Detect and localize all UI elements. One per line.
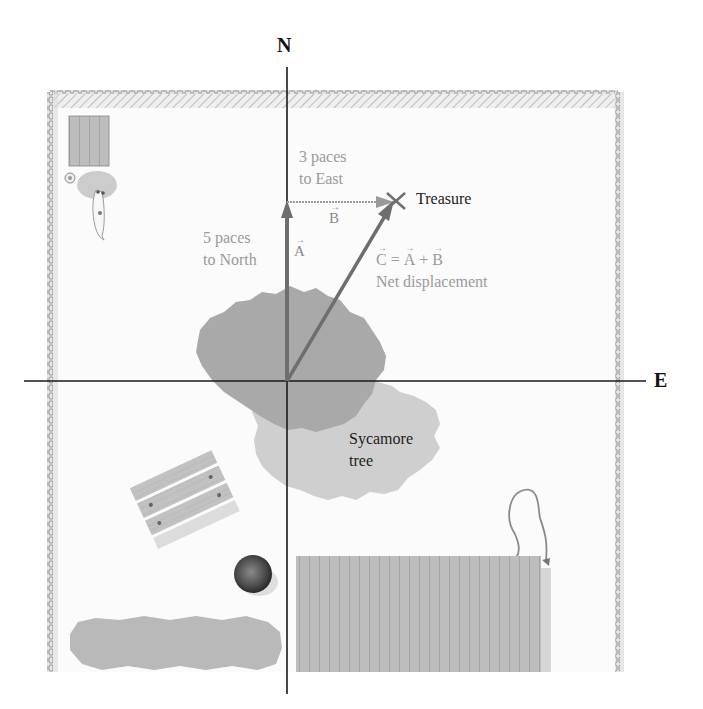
hedge-icon (70, 616, 282, 670)
vector-c-equation: → C = → A + → B (376, 251, 443, 269)
vector-a-symbol: A (404, 251, 416, 268)
vector-a-description-line2: to North (203, 251, 257, 269)
wooden-deck-icon (296, 556, 551, 672)
vector-b-symbol-text: B (329, 210, 339, 226)
vector-c-description: Net displacement (376, 273, 488, 291)
vector-a-symbol: → A (294, 243, 305, 260)
north-label: N (277, 34, 291, 57)
sycamore-label-line2: tree (349, 452, 373, 470)
vector-c-symbol: C (376, 251, 387, 268)
vector-b-description-line1: 3 paces (299, 148, 347, 166)
vector-arrow-accent-icon: → (433, 242, 443, 254)
vector-arrow-accent-icon: → (330, 201, 340, 212)
treasure-label: Treasure (416, 190, 471, 208)
sycamore-label-line1: Sycamore (349, 430, 413, 448)
vector-a-symbol-text: A (294, 243, 305, 259)
vector-b-symbol: → B (329, 210, 339, 227)
plus-sign: + (419, 251, 428, 268)
vector-arrow-accent-icon: → (405, 242, 415, 254)
equals-sign: = (391, 251, 400, 268)
vector-arrow-accent-icon: → (377, 242, 387, 254)
treasure-map-diagram: N E 3 paces to East → B 5 paces to North… (0, 0, 703, 709)
vector-arrow-accent-icon: → (295, 234, 305, 245)
east-label: E (654, 369, 667, 392)
vector-a-description-line1: 5 paces (203, 229, 251, 247)
vector-b-symbol: B (432, 251, 443, 268)
vector-b-description-line2: to East (299, 170, 343, 188)
